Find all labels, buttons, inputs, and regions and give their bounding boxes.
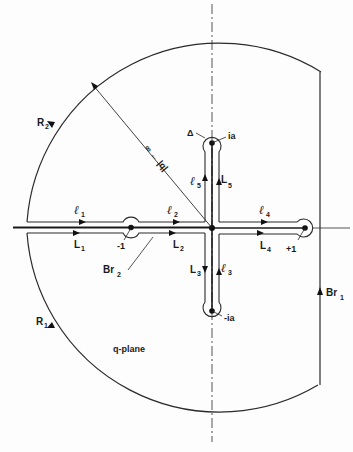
svg-text:1: 1 bbox=[81, 211, 85, 218]
label-L5: L bbox=[221, 174, 227, 185]
label-minus-ia: -ia bbox=[224, 313, 235, 323]
label-delta: Δ bbox=[187, 128, 194, 138]
svg-text:3: 3 bbox=[197, 270, 201, 277]
label-radius: ∞ ← |q| bbox=[142, 143, 170, 173]
svg-text:5: 5 bbox=[197, 182, 201, 189]
label-l2: ℓ bbox=[167, 203, 172, 217]
label-ia: ia bbox=[228, 131, 237, 141]
label-plus-one: +1 bbox=[286, 244, 296, 254]
L1-arrow-icon bbox=[73, 230, 80, 236]
l4-arrow-icon bbox=[261, 219, 268, 225]
svg-text:5: 5 bbox=[228, 182, 232, 189]
svg-text:2: 2 bbox=[180, 245, 184, 252]
svg-text:4: 4 bbox=[266, 211, 270, 218]
L2-arrow-icon bbox=[169, 230, 176, 236]
l1-arrow-icon bbox=[79, 219, 86, 225]
svg-text:2: 2 bbox=[117, 271, 121, 278]
svg-text:1: 1 bbox=[81, 245, 85, 252]
label-R1: R bbox=[36, 316, 44, 327]
label-R2: R bbox=[37, 117, 45, 128]
svg-text:2: 2 bbox=[45, 123, 49, 130]
label-l3: ℓ bbox=[221, 261, 226, 275]
svg-text:3: 3 bbox=[228, 269, 232, 276]
label-L2: L bbox=[173, 239, 179, 250]
Br1-arrow-icon bbox=[317, 287, 323, 295]
label-L4: L bbox=[260, 240, 266, 251]
label-Br2: Br bbox=[103, 264, 114, 275]
l5-arrow-icon bbox=[202, 174, 208, 181]
label-l4: ℓ bbox=[259, 203, 264, 217]
L3-arrow-icon bbox=[202, 266, 208, 273]
svg-text:4: 4 bbox=[267, 246, 271, 253]
direction-arrows bbox=[47, 121, 323, 328]
label-Br1: Br bbox=[326, 287, 337, 298]
R1-arrow-icon bbox=[47, 322, 55, 328]
label-minus-one: -1 bbox=[117, 241, 125, 251]
L4-arrow-icon bbox=[257, 230, 264, 236]
svg-text:2: 2 bbox=[174, 211, 178, 218]
leader-lines bbox=[124, 133, 305, 316]
contour-diagram: R 2 R 1 Br 1 Br 2 ℓ 1 L 1 ℓ 2 L 2 ℓ 4 L … bbox=[0, 0, 353, 452]
label-l5: ℓ bbox=[190, 174, 195, 188]
minus-one-point bbox=[128, 225, 134, 231]
label-l1: ℓ bbox=[74, 203, 79, 217]
label-L1: L bbox=[74, 239, 80, 250]
label-q-plane: q-plane bbox=[113, 344, 145, 354]
label-L3: L bbox=[190, 264, 196, 275]
svg-text:1: 1 bbox=[340, 294, 344, 301]
svg-text:1: 1 bbox=[44, 322, 48, 329]
l2-arrow-icon bbox=[173, 219, 180, 225]
